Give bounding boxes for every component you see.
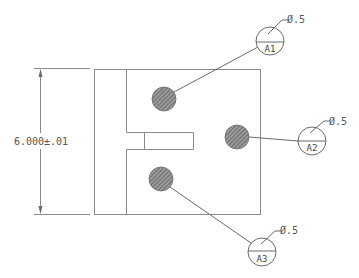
balloon-label: A1: [265, 44, 276, 54]
vertical-dimension[interactable]: 6.000±.01: [12, 69, 90, 215]
callout-balloon-a2[interactable]: A2 Ø.5: [298, 116, 347, 155]
dimension-label: 6.000±.01: [14, 136, 68, 147]
diameter-note: Ø.5: [280, 225, 298, 236]
diameter-note: Ø.5: [287, 14, 305, 25]
hole-a3[interactable]: [149, 167, 173, 191]
balloon-leader: [261, 231, 275, 244]
diameter-note: Ø.5: [329, 116, 347, 127]
arrowhead-down-icon: [39, 206, 43, 214]
hole-a1[interactable]: [152, 87, 176, 111]
callout-balloon-a3[interactable]: A3 Ø.5: [248, 225, 298, 266]
callout-balloon-a1[interactable]: A1 Ø.5: [256, 14, 305, 55]
technical-drawing: A1 Ø.5 A2 Ø.5 A3 Ø.5 6.000±.01: [0, 0, 359, 278]
leader-line-a2: [249, 137, 298, 141]
arrowhead-up-icon: [39, 69, 43, 77]
balloon-label: A2: [307, 143, 318, 153]
hole-a2[interactable]: [225, 125, 249, 149]
balloon-label: A3: [257, 254, 268, 264]
